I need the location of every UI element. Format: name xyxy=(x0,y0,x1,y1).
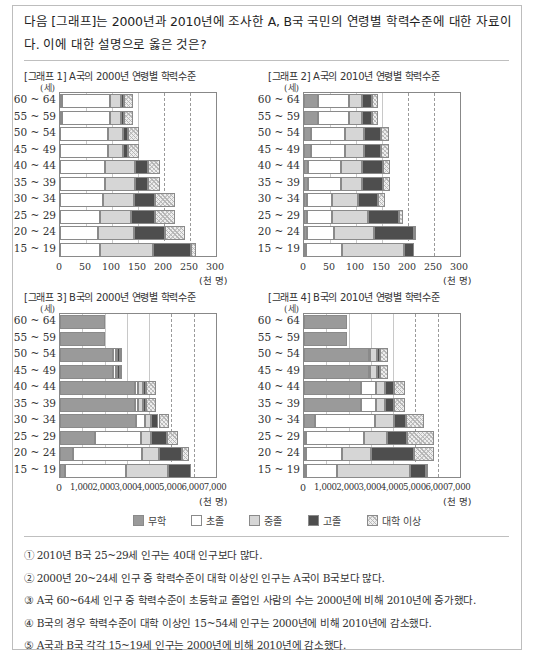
segment-college xyxy=(120,348,122,362)
segment-middle xyxy=(100,243,153,257)
segment-elementary xyxy=(95,431,141,445)
segment-middle xyxy=(110,111,120,125)
y-category-label: 55 ~ 59 xyxy=(256,110,300,122)
segment-high xyxy=(385,398,394,412)
segment-college xyxy=(406,414,424,428)
segment-college xyxy=(148,160,160,174)
x-tick-label: 3,000 xyxy=(359,482,382,492)
x-tick-label: 300 xyxy=(450,261,468,272)
segment-elementary xyxy=(308,177,341,191)
y-category-label: 30 ~ 34 xyxy=(12,413,56,425)
segment-none xyxy=(304,111,318,125)
y-category-label: 45 ~ 49 xyxy=(256,364,300,376)
segment-high xyxy=(362,111,372,125)
segment-elementary xyxy=(306,243,342,257)
segment-none xyxy=(60,447,73,461)
x-tick-label: 3,000 xyxy=(115,482,138,492)
plot-area xyxy=(59,313,217,478)
y-category-label: 60 ~ 64 xyxy=(256,93,300,105)
x-axis-unit: (천 명) xyxy=(199,273,227,287)
segment-middle xyxy=(349,94,361,108)
answer-option-1[interactable]: ① 2010년 B국 25~29세 인구는 40대 인구보다 많다. xyxy=(24,544,519,567)
segment-college xyxy=(394,381,405,395)
legend-item-elementary: 초졸 xyxy=(191,513,224,528)
segment-middle xyxy=(341,160,362,174)
segment-high xyxy=(410,464,426,478)
segment-none xyxy=(60,381,135,395)
segment-middle xyxy=(108,144,123,158)
x-tick-label: 150 xyxy=(372,261,390,272)
x-axis-unit: (천 명) xyxy=(443,494,471,508)
legend-label: 초졸 xyxy=(206,513,224,528)
segment-college xyxy=(372,111,378,125)
segment-middle xyxy=(370,365,377,379)
x-tick-label: 1,000 xyxy=(70,482,93,492)
x-tick-label: 5,000 xyxy=(403,482,426,492)
y-category-label: 60 ~ 64 xyxy=(12,93,56,105)
segment-middle xyxy=(332,193,359,207)
y-category-label: 60 ~ 64 xyxy=(256,314,300,326)
legend-swatch-college xyxy=(367,515,378,526)
segment-middle xyxy=(341,177,362,191)
segment-elementary xyxy=(311,127,345,141)
answer-option-3[interactable]: ③ A국 60~64세 인구 중 학력수준이 초등학교 졸업인 사람의 수는 2… xyxy=(24,589,519,612)
segment-elementary xyxy=(318,94,349,108)
segment-college xyxy=(426,464,428,478)
legend-item-college: 대학 이상 xyxy=(367,513,421,528)
segment-high xyxy=(374,226,414,240)
segment-elementary xyxy=(60,243,100,257)
y-category-label: 35 ~ 39 xyxy=(12,397,56,409)
x-tick-label: 0 xyxy=(56,482,62,493)
answer-option-5[interactable]: ⑤ A국과 B국 각각 15~19세 인구는 2000년에 비해 2010년에 … xyxy=(24,634,519,656)
segment-elementary xyxy=(62,94,111,108)
segment-high xyxy=(364,144,382,158)
segment-elementary xyxy=(62,111,111,125)
segment-elementary xyxy=(361,381,377,395)
segment-college xyxy=(146,381,156,395)
gridline xyxy=(434,93,435,256)
x-tick-label: 4,000 xyxy=(381,482,404,492)
legend-swatch-middle xyxy=(249,515,260,526)
segment-elementary xyxy=(311,144,345,158)
y-axis-unit: (세) xyxy=(40,302,55,315)
segment-none xyxy=(304,365,369,379)
segment-middle xyxy=(103,193,135,207)
x-tick-label: 50 xyxy=(323,261,335,272)
y-category-label: 25 ~ 29 xyxy=(12,430,56,442)
x-tick-label: 0 xyxy=(56,261,62,272)
x-tick-label: 4,000 xyxy=(137,482,160,492)
segment-high xyxy=(358,193,378,207)
segment-middle xyxy=(337,464,411,478)
segment-college xyxy=(124,94,132,108)
answer-option-2[interactable]: ② 2000년 20~24세 인구 중 학력수준이 대학 이상인 인구는 A국이… xyxy=(24,567,519,590)
segment-elementary xyxy=(306,431,364,445)
x-tick-label: 250 xyxy=(180,261,198,272)
segment-elementary xyxy=(315,414,375,428)
segment-college xyxy=(414,447,434,461)
legend-divider xyxy=(24,536,509,537)
segment-college xyxy=(124,111,132,125)
segment-middle xyxy=(100,210,132,224)
x-tick-label: 1,000 xyxy=(314,482,337,492)
segment-middle xyxy=(105,160,135,174)
segment-elementary xyxy=(60,160,105,174)
y-category-label: 15 ~ 19 xyxy=(12,463,56,475)
segment-none xyxy=(60,315,105,329)
y-category-label: 50 ~ 54 xyxy=(256,347,300,359)
segment-high xyxy=(151,414,158,428)
segment-elementary xyxy=(73,447,143,461)
segment-high xyxy=(404,243,414,257)
segment-middle xyxy=(375,414,394,428)
segment-middle xyxy=(142,447,159,461)
segment-elementary xyxy=(60,210,100,224)
y-category-label: 30 ~ 34 xyxy=(256,413,300,425)
chart-b-2000: [그래프 3] B국의 2000년 연령별 학력수준(세)60 ~ 6455 ~… xyxy=(24,289,264,509)
answer-option-4[interactable]: ④ B국의 경우 학력수준이 대학 이상인 15~54세 인구는 2000년에 … xyxy=(24,612,519,635)
segment-middle xyxy=(376,381,385,395)
y-category-label: 60 ~ 64 xyxy=(12,314,56,326)
segment-high xyxy=(368,210,399,224)
segment-high xyxy=(168,464,191,478)
segment-middle xyxy=(126,464,169,478)
segment-college xyxy=(128,127,139,141)
legend-swatch-elementary xyxy=(191,515,202,526)
